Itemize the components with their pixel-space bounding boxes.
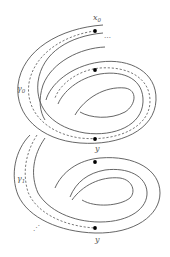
lower-outer-boundary <box>14 135 160 233</box>
y-lower-point <box>93 226 97 230</box>
lower-inner-boundary <box>34 138 148 222</box>
gamma1-label: γ1 <box>17 174 25 184</box>
x0-point <box>93 29 97 33</box>
upper-outer-boundary <box>18 25 156 143</box>
y-upper-point <box>93 137 97 141</box>
spiral-diagram: x0 γ0 γ1 y y ⋯ ⋰ <box>0 0 170 257</box>
upper-innermost-loop <box>75 88 134 117</box>
x0-label: x0 <box>93 13 102 23</box>
upper-inner-point <box>93 68 97 72</box>
ellipsis-top: ⋯ <box>104 34 111 42</box>
lower-innermost-loop <box>72 178 133 205</box>
upper-inner-boundary <box>38 33 143 134</box>
gamma0-label: γ0 <box>17 84 26 94</box>
y-upper-label: y <box>94 144 100 153</box>
lower-inner-point <box>93 160 97 164</box>
upper-core-arc <box>40 47 105 120</box>
y-lower-label: y <box>94 235 100 244</box>
gamma1-path <box>25 135 95 228</box>
gamma0-path <box>28 31 150 139</box>
ellipsis-bottom: ⋰ <box>33 224 40 232</box>
